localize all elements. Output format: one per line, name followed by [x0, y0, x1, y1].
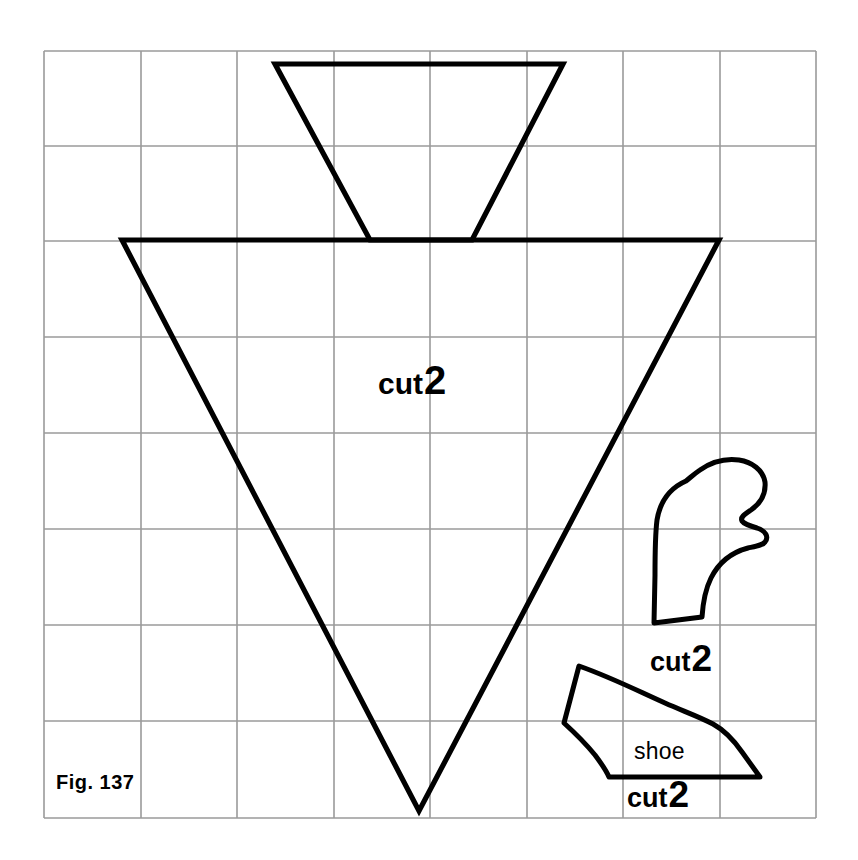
pattern-figure: cut 2 cut 2 shoe cut 2 Fig. 137: [0, 0, 858, 860]
canvas-background: [0, 0, 858, 860]
pattern-drawing: [0, 0, 858, 860]
